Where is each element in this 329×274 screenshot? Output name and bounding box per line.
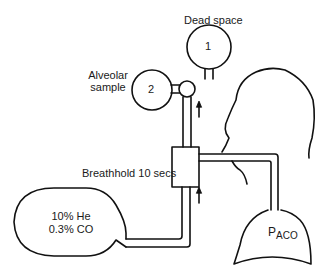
single-breath-diffusion-diagram: Dead space 1 Alveolar sample 2 Breathhol… xyxy=(0,0,329,274)
gas-mixture-line2: 0.3% CO xyxy=(40,223,102,236)
paco-main: P xyxy=(268,225,276,239)
head-profile xyxy=(222,68,314,158)
paco-subscript: ACO xyxy=(276,230,298,241)
dead-space-bag-neck xyxy=(205,69,213,79)
upper-tube xyxy=(183,97,191,147)
chin-neck xyxy=(232,161,247,184)
alveolar-sample-label-line2: sample xyxy=(88,81,128,94)
alveolar-sample-bag-number: 2 xyxy=(148,83,154,96)
lower-tube xyxy=(126,187,190,247)
valve xyxy=(179,81,195,97)
arrow-up-lower-head xyxy=(197,187,202,193)
arrow-up-upper-head xyxy=(197,101,202,107)
mouth-tube xyxy=(199,154,278,210)
alveolar-co-pressure-label: PACO xyxy=(268,226,298,242)
breathhold-label: Breathhold 10 secs xyxy=(82,167,176,180)
dead-space-bag-number: 1 xyxy=(205,40,211,53)
gas-mixture-line1: 10% He xyxy=(40,210,102,223)
dead-space-label: Dead space xyxy=(184,14,243,27)
